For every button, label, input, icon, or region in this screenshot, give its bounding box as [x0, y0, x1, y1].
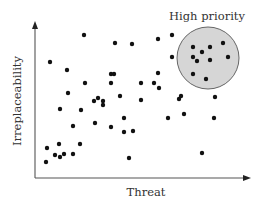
data-point	[156, 71, 160, 75]
scatter-chart: High priority Threat Irreplaceability	[0, 0, 262, 204]
data-point	[57, 142, 61, 146]
data-point	[208, 58, 212, 62]
y-axis-label: Irreplaceability	[10, 56, 24, 146]
data-point	[195, 59, 199, 63]
x-axis-arrow-icon	[243, 175, 251, 181]
data-point	[101, 99, 105, 103]
data-point	[62, 152, 66, 156]
data-point	[182, 112, 186, 116]
data-point	[44, 160, 48, 164]
data-point	[96, 96, 100, 100]
x-axis-label: Threat	[127, 185, 166, 199]
data-point	[170, 55, 174, 59]
data-point	[131, 129, 135, 133]
data-point	[157, 86, 161, 90]
data-point	[170, 33, 174, 37]
data-point	[92, 99, 96, 103]
data-point	[113, 41, 117, 45]
data-points	[44, 33, 230, 164]
data-point	[139, 98, 143, 102]
data-point	[130, 42, 134, 46]
data-point	[191, 45, 195, 49]
data-point	[152, 81, 156, 85]
data-point	[65, 68, 69, 72]
data-point	[112, 72, 116, 76]
y-axis-arrow-icon	[32, 21, 38, 29]
data-point	[93, 121, 97, 125]
data-point	[226, 55, 230, 59]
data-point	[191, 72, 195, 76]
data-point	[166, 116, 170, 120]
data-point	[82, 33, 86, 37]
data-point	[122, 130, 126, 134]
data-point	[200, 151, 204, 155]
data-point	[53, 153, 57, 157]
data-point	[66, 91, 70, 95]
data-point	[48, 60, 52, 64]
data-point	[45, 146, 49, 150]
data-point	[212, 116, 216, 120]
data-point	[213, 95, 217, 99]
data-point	[191, 55, 195, 59]
data-point	[118, 94, 122, 98]
data-point	[58, 107, 62, 111]
high-priority-label: High priority	[169, 9, 245, 23]
data-point	[139, 81, 143, 85]
data-point	[221, 41, 225, 45]
data-point	[177, 97, 181, 101]
data-point	[101, 103, 105, 107]
data-point	[208, 45, 212, 49]
data-point	[109, 125, 113, 129]
data-point	[78, 142, 82, 146]
data-point	[156, 37, 160, 41]
data-point	[79, 108, 83, 112]
data-point	[122, 116, 126, 120]
data-point	[71, 152, 75, 156]
data-point	[200, 50, 204, 54]
data-point	[204, 77, 208, 81]
data-point	[127, 156, 131, 160]
data-point	[83, 81, 87, 85]
data-point	[58, 155, 62, 159]
data-point	[71, 124, 75, 128]
data-point	[109, 81, 113, 85]
